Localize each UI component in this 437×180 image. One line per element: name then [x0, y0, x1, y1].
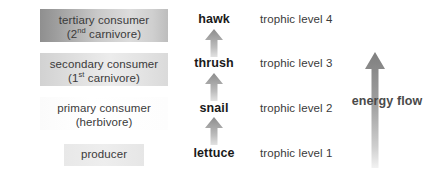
role-label-line1: primary consumer: [40, 101, 168, 115]
role-box-primary-consumer: primary consumer (herbivore): [40, 97, 168, 130]
food-chain-arrow-thrush-to-hawk: [202, 29, 226, 57]
role-label-line2-pre: (1: [68, 72, 78, 84]
role-label-line1: secondary consumer: [40, 57, 168, 71]
role-label-line1: tertiary consumer: [40, 13, 168, 27]
food-chain-diagram: tertiary consumer (2nd carnivore) second…: [0, 0, 437, 180]
trophic-level-3-label: trophic level 3: [260, 57, 356, 69]
trophic-level-4-label: trophic level 4: [260, 13, 356, 25]
organism-hawk: hawk: [176, 12, 252, 26]
role-label-line2-pre: (2: [67, 28, 77, 40]
role-box-tertiary-consumer: tertiary consumer (2nd carnivore): [40, 9, 168, 42]
role-label-line2-post: carnivore): [86, 28, 141, 40]
role-label-line2: (2nd carnivore): [40, 27, 168, 41]
role-label-line1: producer: [64, 147, 144, 161]
role-label-line2-superscript: nd: [77, 26, 86, 35]
food-chain-arrow-snail-to-thrush: [202, 73, 226, 101]
role-label-line2: (herbivore): [40, 115, 168, 129]
role-label-line2-post: carnivore): [85, 72, 140, 84]
energy-flow-arrow-icon: [362, 52, 388, 168]
role-label-line2: (1st carnivore): [40, 71, 168, 85]
organism-snail: snail: [176, 101, 252, 115]
energy-flow-label: energy flow: [341, 94, 433, 108]
trophic-level-1-label: trophic level 1: [260, 147, 356, 159]
role-box-secondary-consumer: secondary consumer (1st carnivore): [40, 53, 168, 86]
organism-thrush: thrush: [176, 56, 252, 70]
food-chain-arrow-lettuce-to-snail: [202, 117, 226, 145]
organism-lettuce: lettuce: [176, 146, 252, 160]
role-box-producer: producer: [64, 144, 144, 166]
